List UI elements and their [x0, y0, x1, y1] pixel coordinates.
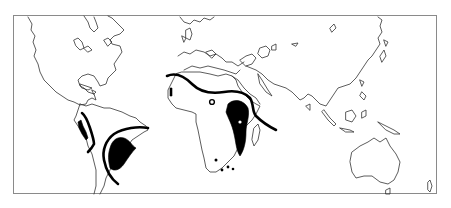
world-map — [0, 0, 451, 208]
asia-coastline — [240, 17, 388, 106]
north-america-coastline — [28, 16, 124, 105]
paraguay-chaco-distribution — [109, 137, 137, 170]
distribution-overlay — [78, 74, 276, 184]
australia-coastline — [350, 138, 432, 194]
southern-africa-spots — [215, 159, 235, 172]
lake-victoria-gap — [238, 120, 241, 123]
europe-coastline — [178, 17, 244, 74]
southeast-asia-coastline — [306, 104, 400, 134]
lake-chad-ring — [210, 100, 215, 105]
east-africa-distribution — [226, 101, 249, 156]
west-africa-coastal-patch — [170, 88, 172, 96]
andes-coastal-patch — [78, 120, 88, 140]
